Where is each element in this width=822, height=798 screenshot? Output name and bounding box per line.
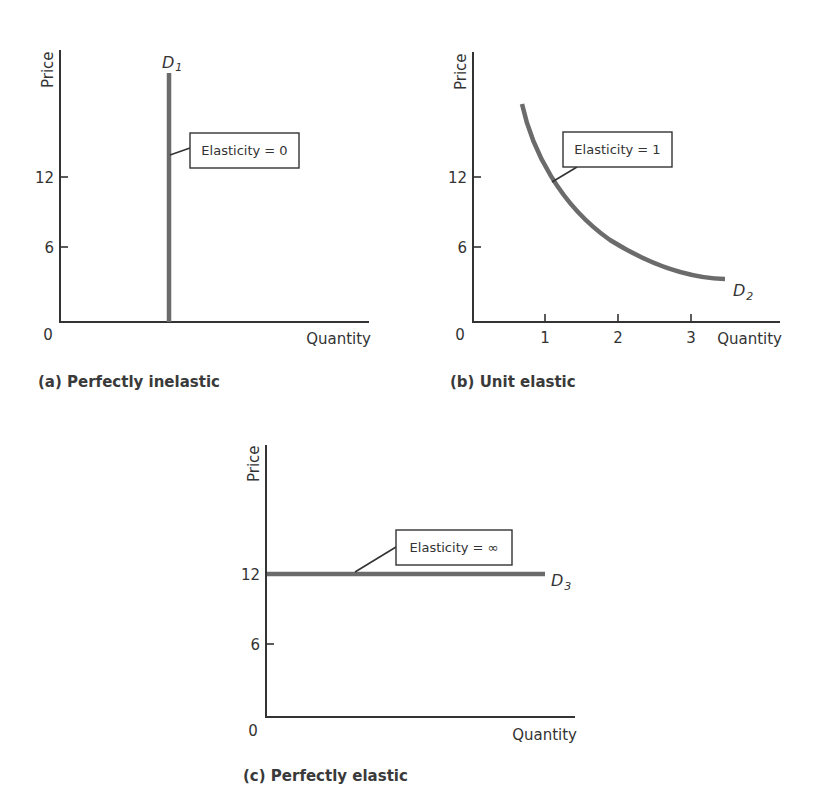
annotation-elasticity-0: Elasticity = 0 <box>201 143 287 158</box>
x-tick-label-1: 1 <box>540 329 550 347</box>
y-axis-label: Price <box>39 51 57 88</box>
annotation-leader <box>355 547 396 572</box>
y-tick-label-6: 6 <box>250 636 260 654</box>
origin-label: 0 <box>43 326 53 344</box>
caption-b: (b) Unit elastic <box>450 373 576 391</box>
y-tick-label-6: 6 <box>44 239 54 257</box>
x-axis-label: Quantity <box>512 726 577 744</box>
x-tick-label-3: 3 <box>686 329 696 347</box>
caption-c: (c) Perfectly elastic <box>243 767 408 785</box>
curve-label-d2: D2 <box>733 281 753 303</box>
annotation-leader <box>552 167 577 182</box>
y-axis-label: Price <box>452 53 470 90</box>
panel-c-perfectly-elastic: 12 6 0 Price Quantity D3 Elasticity = ∞ … <box>241 445 577 785</box>
elasticity-figure: 12 6 0 Price Quantity D1 Elasticity = 0 … <box>0 0 822 798</box>
y-tick-label-6: 6 <box>457 239 467 257</box>
curve-label-d3: D3 <box>551 571 571 593</box>
x-axis-label: Quantity <box>717 330 782 348</box>
curve-label-d1: D1 <box>162 53 182 74</box>
y-axis-label: Price <box>245 445 263 482</box>
annotation-elasticity-1: Elasticity = 1 <box>574 142 660 157</box>
origin-label: 0 <box>248 722 258 740</box>
origin-label: 0 <box>455 326 465 344</box>
annotation-elasticity-infinity: Elasticity = ∞ <box>410 540 499 555</box>
annotation-leader <box>170 148 190 155</box>
y-tick-label-12: 12 <box>35 169 54 187</box>
y-tick-label-12: 12 <box>241 566 260 584</box>
y-tick-label-12: 12 <box>448 169 467 187</box>
x-axis-label: Quantity <box>306 330 371 348</box>
caption-a: (a) Perfectly inelastic <box>38 373 220 391</box>
x-tick-label-2: 2 <box>613 329 623 347</box>
demand-curve-d2 <box>522 104 725 279</box>
panel-a-perfectly-inelastic: 12 6 0 Price Quantity D1 Elasticity = 0 … <box>35 50 371 391</box>
panel-b-unit-elastic: 12 6 0 1 2 3 Price Quantity D2 Elasticit… <box>448 52 782 391</box>
